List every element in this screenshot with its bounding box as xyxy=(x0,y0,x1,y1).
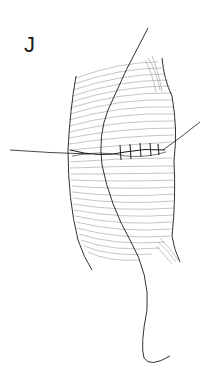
suture-illustration xyxy=(0,0,211,387)
tissue-outline xyxy=(68,58,180,270)
tissue-hatching xyxy=(69,56,178,264)
suture-line xyxy=(10,122,200,160)
